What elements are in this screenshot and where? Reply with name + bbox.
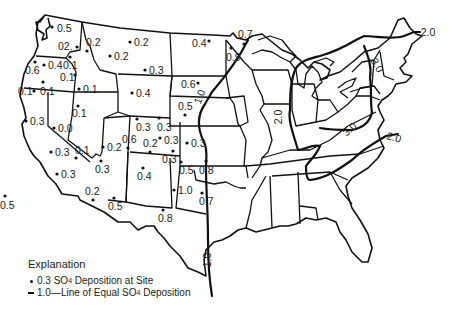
site-dot-icon: [242, 42, 245, 45]
legend-title: Explanation: [28, 258, 190, 270]
legend-site-value: 0.3: [37, 275, 51, 287]
site-value-label: 0.3: [55, 146, 70, 158]
site-dot-icon: [128, 40, 131, 43]
site-dot-icon: [207, 39, 210, 42]
site-value-label: 0.5: [0, 199, 15, 211]
isoline-icon: [28, 292, 34, 294]
isoline-value-label: 1.0: [201, 253, 213, 268]
site-dot-icon: [42, 63, 45, 66]
isoline-value-label: 2.0: [385, 129, 402, 144]
site-dot-icon: [55, 172, 58, 175]
site-value-label: 0.1: [40, 85, 55, 97]
site-dot-icon: [229, 46, 232, 49]
site-dot-icon: [85, 49, 88, 52]
site-value-label: 0.5: [179, 164, 194, 176]
site-value-label: 0.3: [191, 137, 206, 149]
isoline-value-label: 2.0: [272, 110, 284, 125]
site-value-label: 0.6: [122, 133, 137, 145]
site-value-label: 0.7: [238, 28, 253, 40]
site-value-label: 0.1: [63, 59, 78, 71]
site-value-label: 0.2: [114, 50, 129, 62]
site-dot-icon: [30, 280, 33, 283]
site-dot-icon: [183, 113, 186, 116]
isoline-2-0-north: [290, 32, 420, 110]
legend: Explanation 0.3 SO4 Deposition at Site 1…: [28, 258, 190, 299]
site-dot-icon: [130, 91, 133, 94]
site-dot-icon: [158, 136, 161, 139]
site-dot-icon: [143, 68, 146, 71]
site-dot-icon: [196, 81, 199, 84]
isolines: [199, 32, 420, 296]
site-dot-icon: [3, 194, 6, 197]
site-dot-icon: [101, 145, 104, 148]
site-value-label: 0.2: [85, 185, 100, 197]
site-value-label: 0.5: [57, 22, 72, 34]
site-dot-icon: [204, 159, 207, 162]
site-dot-icon: [77, 87, 80, 90]
site-value-label: 0.2: [143, 137, 158, 149]
site-value-label: 0.4: [136, 87, 151, 99]
legend-site-text-post: Deposition at Site: [72, 275, 153, 287]
legend-line-value: 1.0: [37, 287, 51, 299]
site-value-label: 02.: [58, 40, 73, 52]
site-value-label: 0.9: [226, 51, 241, 63]
site-dot-icon: [52, 126, 55, 129]
site-dot-icon: [126, 146, 129, 149]
site-value-label: 0.6: [25, 64, 40, 76]
legend-line-row: 1.0—Line of Equal SO4 Deposition: [28, 287, 190, 299]
legend-site-text-pre: SO: [54, 275, 68, 287]
site-value-label: 0.2: [134, 36, 149, 48]
site-value-label: 0.3: [149, 64, 164, 76]
site-dot-icon: [50, 25, 53, 28]
site-value-label: 0.3: [136, 121, 151, 133]
site-dot-icon: [74, 156, 77, 159]
site-value-label: 0.4: [137, 170, 152, 182]
site-value-label: 0.5: [108, 200, 123, 212]
site-dot-icon: [24, 119, 27, 122]
site-dot-icon: [148, 150, 151, 153]
isoline-value-label: 2.0: [421, 26, 436, 38]
site-value-label: 0.0: [58, 122, 73, 134]
site-value-label: 0.1: [60, 71, 75, 83]
site-value-label: 0.1: [18, 85, 33, 97]
site-dot-icon: [75, 45, 78, 48]
site-value-label: 0.3: [164, 134, 179, 146]
site-value-label: 0.7: [199, 195, 214, 207]
site-value-label: 0.3: [61, 168, 76, 180]
site-value-label: 0.1: [83, 83, 98, 95]
legend-site-row: 0.3 SO4 Deposition at Site: [28, 275, 190, 287]
site-value-label: 1.0: [178, 184, 193, 196]
legend-line-text-post: Deposition: [140, 287, 190, 299]
site-dot-icon: [91, 198, 94, 201]
site-value-label: 0.8: [158, 212, 173, 224]
site-dot-icon: [108, 54, 111, 57]
site-value-label: 0.2: [107, 141, 122, 153]
site-value-label: 0.3: [162, 153, 177, 165]
site-dot-icon: [157, 116, 160, 119]
site-dot-icon: [32, 89, 35, 92]
site-value-label: 0.1: [75, 144, 90, 156]
site-value-label: 0.3: [95, 163, 110, 175]
legend-line-text-pre: —Line of Equal SO: [51, 287, 137, 299]
site-value-label: 0.3: [157, 121, 172, 133]
site-dot-icon: [185, 141, 188, 144]
site-value-label: 0.3: [30, 115, 45, 127]
site-dot-icon: [49, 150, 52, 153]
great-lakes: [252, 36, 372, 100]
site-value-label: 0.8: [199, 164, 214, 176]
site-value-label: 0.2: [86, 36, 101, 48]
site-value-label: 0.4: [192, 37, 207, 49]
site-dot-icon: [41, 80, 44, 83]
site-value-label: 0.4: [48, 59, 63, 71]
site-value-label: 0.1: [72, 107, 87, 119]
site-dot-icon: [172, 188, 175, 191]
site-value-label: 0.6: [181, 78, 196, 90]
